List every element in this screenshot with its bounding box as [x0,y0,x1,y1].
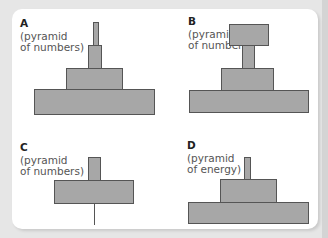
pyramid-d-level-3 [244,157,251,180]
letter-d: D [187,140,241,152]
pyramid-c-level-3 [88,157,101,181]
pyramid-c-level-2 [54,180,134,204]
pyramid-c-level-1-line [94,203,95,225]
label-c: C (pyramid of numbers) [20,142,84,178]
label-a-line2: of numbers) [20,42,84,54]
pyramid-d-level-1 [188,202,309,224]
pyramid-b-level-4 [229,24,269,46]
letter-c: C [20,142,84,154]
pyramid-b-level-3 [242,45,255,69]
pyramid-d-level-2 [220,179,277,203]
pyramid-a-level-1 [34,89,155,115]
pyramid-a-level-4 [93,22,99,46]
page-edge [322,0,328,238]
label-d: D (pyramid of energy) [187,140,241,176]
pyramid-b-level-2 [221,68,274,91]
label-c-line2: of numbers) [20,166,84,178]
pyramid-a-level-2 [66,68,123,90]
label-a: A (pyramid of numbers) [20,18,84,54]
letter-a: A [20,18,84,30]
pyramid-a-level-3 [88,45,102,69]
pyramid-b-level-1 [189,90,309,113]
label-d-line2: of energy) [187,164,241,176]
